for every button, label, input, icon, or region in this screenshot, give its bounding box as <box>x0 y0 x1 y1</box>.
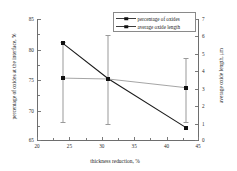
y-axis-left-title: percentage of oxides at the interface, % <box>9 4 19 149</box>
data-point <box>61 76 65 80</box>
y-axis-right-tick-label: 1 <box>201 121 205 127</box>
data-point <box>184 86 188 90</box>
chart-figure: percentage of oxides at the interface, %… <box>0 0 237 171</box>
y-axis-left-tick-label: 85 <box>29 16 36 22</box>
plot-area: 85 80 75 70 65 7 6 5 4 3 2 1 0 20 <box>37 19 199 141</box>
legend-marker-percentage-of-oxides <box>116 15 136 23</box>
y-axis-right-tick-label: 3 <box>201 86 205 92</box>
y-axis-left-tick-label: 70 <box>29 108 36 114</box>
x-axis-title: thickness reduction, % <box>30 158 200 164</box>
y-axis-right-title: average oxide length, μm <box>216 3 226 148</box>
data-point <box>61 41 65 45</box>
y-axis-right-tick-label: 7 <box>201 16 205 22</box>
y-axis-right-tick-label: 6 <box>201 33 205 39</box>
x-axis-tick-label: 45 <box>195 141 200 149</box>
line-average-oxide-length <box>63 78 186 88</box>
legend: percentage of oxides average oxide lengt… <box>113 12 196 32</box>
legend-label: average oxide length <box>136 24 180 30</box>
legend-item: percentage of oxides <box>116 15 193 23</box>
data-point <box>106 77 110 81</box>
data-series-layer <box>37 19 199 141</box>
x-axis-tick-label: 30 <box>99 141 104 149</box>
data-point <box>184 126 188 130</box>
x-axis-tick-label: 20 <box>34 141 39 149</box>
legend-label: percentage of oxides <box>136 16 180 22</box>
x-axis-tick-label: 25 <box>67 141 72 149</box>
y-axis-right-tick-label: 0 <box>201 137 205 143</box>
y-axis-right-tick-label: 2 <box>201 103 205 109</box>
y-axis-right-tick-label: 4 <box>201 68 205 74</box>
x-axis-tick-label: 40 <box>164 141 169 149</box>
legend-marker-average-oxide-length <box>116 23 136 31</box>
y-axis-left-tick-label: 80 <box>29 47 36 53</box>
y-axis-right-tick-label: 5 <box>201 51 205 57</box>
legend-item: average oxide length <box>116 23 193 31</box>
y-axis-left-tick-label: 75 <box>29 77 36 83</box>
x-axis-tick-label: 35 <box>132 141 137 149</box>
